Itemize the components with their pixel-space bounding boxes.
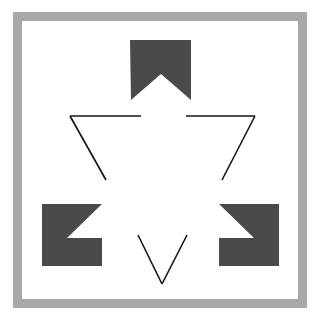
figure-canvas: [0, 0, 320, 325]
illusory-figure-svg: [0, 0, 320, 325]
